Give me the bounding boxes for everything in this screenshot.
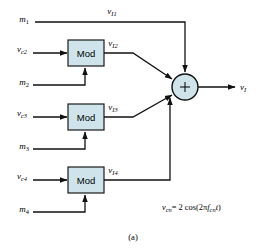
label-vc2: vc2 [17, 44, 28, 55]
block-diagram: Mod Mod Mod m1 vI1 vc2 [0, 0, 266, 252]
carrier-equation: vcn= 2 cos(2πfcnt) [162, 203, 221, 213]
mod-block-4-label: Mod [77, 175, 95, 186]
label-vI1: vI1 [107, 6, 116, 17]
wire-mod2-to-summer [104, 53, 172, 79]
wire-m3-to-mod3 [33, 132, 85, 149]
mod-block-3-label: Mod [77, 112, 95, 123]
label-m3-sub: 3 [26, 145, 29, 152]
label-vI4-sub: I4 [111, 169, 118, 176]
label-m1: m1 [19, 14, 29, 25]
label-vI2-sub: I2 [111, 42, 118, 49]
label-vI3: vI3 [108, 102, 117, 113]
label-vc3-sub: c3 [21, 112, 27, 119]
equation-operator: = 2 cos(2 [172, 203, 203, 212]
label-m2: m2 [19, 77, 29, 88]
label-vc3: vc3 [17, 108, 27, 119]
label-vI-output-sub: I [243, 86, 247, 93]
label-m4: m4 [19, 204, 30, 215]
mod-block-2-label: Mod [77, 48, 95, 59]
wire-m2-to-mod2 [33, 68, 85, 85]
label-m1-sub: 1 [26, 18, 29, 25]
label-vI2: vI2 [108, 38, 118, 49]
label-vI-output: vI [240, 82, 247, 93]
label-vc4-sub: c4 [21, 175, 28, 182]
label-vI1-sub: I1 [110, 10, 116, 17]
label-vc4: vc4 [17, 171, 28, 182]
label-m3: m3 [19, 141, 29, 152]
label-m2-sub: 2 [26, 81, 29, 88]
figure-caption: (a) [128, 232, 138, 242]
equation-close-paren: ) [218, 203, 221, 212]
label-vI3-sub: I3 [111, 106, 117, 113]
wire-m4-to-mod4 [33, 195, 85, 212]
figure-container: Mod Mod Mod m1 vI1 vc2 [0, 0, 266, 252]
label-vI4: vI4 [108, 165, 118, 176]
label-m4-sub: 4 [26, 208, 30, 215]
label-vc2-sub: c2 [21, 48, 28, 55]
